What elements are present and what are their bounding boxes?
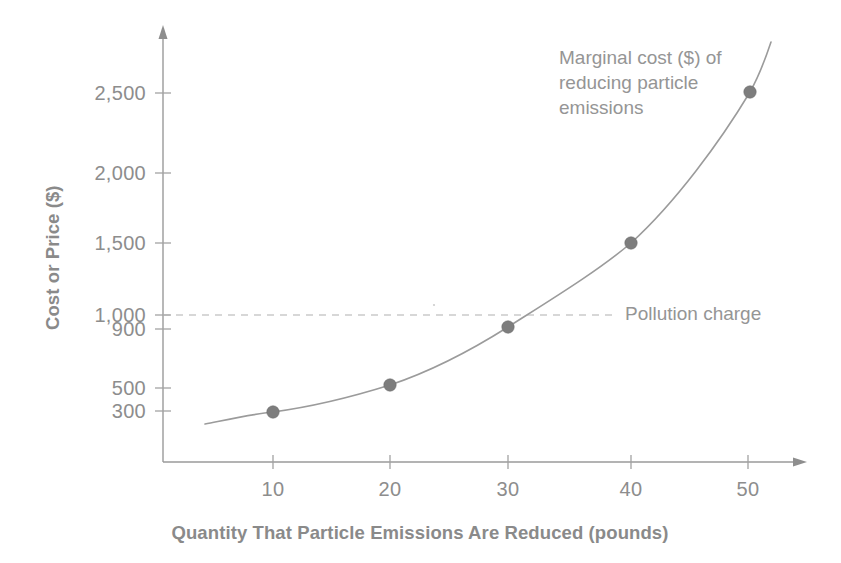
y-tick-label-1500: 1,500 bbox=[60, 232, 146, 256]
curve-annotation-line-1: Marginal cost ($) of bbox=[559, 45, 722, 70]
y-axis-arrow-icon bbox=[159, 25, 168, 39]
curve-annotation-line-2: reducing particle bbox=[559, 70, 722, 95]
artifact-speck bbox=[433, 304, 435, 306]
x-tick-label-10: 10 bbox=[243, 478, 303, 502]
x-tick-label-20: 20 bbox=[360, 478, 420, 502]
y-tick-label-900: 900 bbox=[60, 318, 146, 342]
curve-annotation: Marginal cost ($) of reducing particle e… bbox=[559, 45, 722, 120]
datapoint-10-300 bbox=[267, 406, 279, 418]
datapoint-40-1500 bbox=[625, 237, 637, 249]
y-tick-label-2500: 2,500 bbox=[60, 82, 146, 106]
datapoint-30-900 bbox=[502, 321, 514, 333]
y-axis-title: Cost or Price ($) bbox=[42, 185, 64, 330]
x-axis-title: Quantity That Particle Emissions Are Red… bbox=[120, 522, 720, 544]
y-tick-label-2000: 2,000 bbox=[60, 162, 146, 186]
y-tick-label-500: 500 bbox=[60, 377, 146, 401]
datapoint-20-500 bbox=[384, 379, 396, 391]
x-tick-label-40: 40 bbox=[601, 478, 661, 502]
x-tick-label-30: 30 bbox=[478, 478, 538, 502]
pollution-charge-label: Pollution charge bbox=[625, 303, 761, 325]
y-tick-label-300: 300 bbox=[60, 400, 146, 424]
curve-annotation-line-3: emissions bbox=[559, 95, 722, 120]
datapoint-50-2500 bbox=[744, 86, 756, 98]
x-tick-label-50: 50 bbox=[718, 478, 778, 502]
x-axis-arrow-icon bbox=[793, 458, 807, 467]
chart-figure: 2,500 2,000 1,500 1,000 900 500 300 10 2… bbox=[0, 0, 841, 563]
